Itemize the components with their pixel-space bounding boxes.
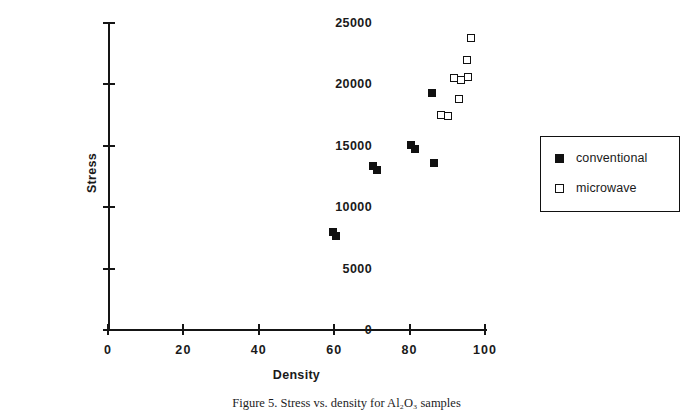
x-tick — [182, 324, 184, 335]
filled-square-icon — [555, 154, 564, 163]
data-point-conventional — [373, 166, 381, 174]
data-point-microwave — [437, 111, 445, 119]
x-tick — [484, 324, 486, 335]
chart-legend: conventional microwave — [540, 136, 680, 212]
data-point-microwave — [467, 34, 475, 42]
y-tick-label: 5000 — [282, 263, 372, 276]
y-tick — [103, 83, 115, 85]
data-point-conventional — [411, 145, 419, 153]
x-tick — [409, 324, 411, 335]
data-point-conventional — [428, 89, 436, 97]
x-tick-label: 0 — [78, 344, 138, 357]
y-tick-label: 10000 — [282, 201, 372, 214]
y-tick — [103, 22, 115, 24]
figure-root: 0500010000150002000025000 020406080100 S… — [0, 0, 693, 412]
scatter-plot-area: 0500010000150002000025000 020406080100 S… — [108, 23, 485, 330]
x-tick-label: 100 — [455, 344, 515, 357]
x-tick — [258, 324, 260, 335]
y-tick — [103, 145, 115, 147]
y-tick — [103, 268, 115, 270]
open-square-icon — [555, 184, 564, 193]
x-tick-label: 80 — [380, 344, 440, 357]
y-tick — [103, 206, 115, 208]
data-point-microwave — [463, 56, 471, 64]
data-point-microwave — [444, 112, 452, 120]
x-tick-label: 20 — [153, 344, 213, 357]
y-tick-label: 0 — [282, 324, 372, 337]
data-point-conventional — [332, 232, 340, 240]
y-tick-label: 15000 — [282, 140, 372, 153]
y-axis-line — [108, 23, 110, 331]
legend-label-microwave: microwave — [576, 181, 637, 195]
legend-item-microwave: microwave — [555, 181, 637, 195]
data-point-conventional — [430, 159, 438, 167]
x-axis-title: Density — [108, 368, 485, 382]
y-tick — [103, 329, 115, 331]
data-point-microwave — [464, 73, 472, 81]
x-tick — [107, 324, 109, 335]
x-tick-label: 60 — [304, 344, 364, 357]
y-axis-title: Stress — [85, 153, 99, 193]
data-point-microwave — [455, 95, 463, 103]
x-tick-label: 40 — [229, 344, 289, 357]
y-tick-label: 20000 — [282, 78, 372, 91]
legend-label-conventional: conventional — [576, 151, 647, 165]
legend-item-conventional: conventional — [555, 151, 647, 165]
x-tick — [333, 324, 335, 335]
y-tick-label: 25000 — [282, 17, 372, 30]
figure-caption: Figure 5. Stress vs. density for Al₂O₃ s… — [0, 396, 693, 411]
